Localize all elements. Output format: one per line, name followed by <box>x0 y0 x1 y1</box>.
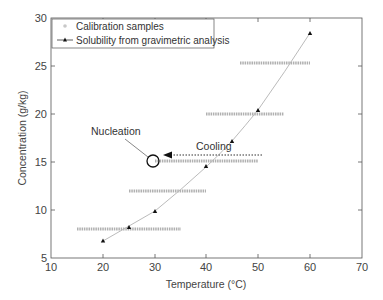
x-axis-label: Temperature (°C) <box>166 278 247 290</box>
y-tick-label: 25 <box>35 60 47 72</box>
y-tick-labels: 5 10 15 20 25 30 <box>35 12 47 264</box>
x-ticks <box>103 18 310 258</box>
nucleation-circle <box>147 155 159 167</box>
arrow-head-icon <box>163 152 172 159</box>
solubility-curve <box>103 33 310 241</box>
legend-label-solubility: Solubility from gravimetric analysis <box>76 35 229 46</box>
x-tick-label: 40 <box>200 261 212 273</box>
x-tick-label: 30 <box>149 261 161 273</box>
y-tick-label: 5 <box>41 252 47 264</box>
y-ticks <box>51 66 362 210</box>
nucleation-label: Nucleation <box>91 125 141 137</box>
y-tick-label: 20 <box>35 108 47 120</box>
x-tick-label: 20 <box>97 261 109 273</box>
calibration-legend-icon <box>63 24 67 28</box>
y-tick-label: 15 <box>35 156 47 168</box>
legend: Calibration samples Solubility from grav… <box>52 19 229 48</box>
y-tick-label: 30 <box>35 12 47 24</box>
x-tick-labels: 10 20 30 40 50 60 70 <box>45 261 368 273</box>
chart: 10 20 30 40 50 60 70 5 10 15 20 25 30 Te… <box>0 0 383 300</box>
nucleation-leader-line <box>125 139 148 157</box>
calibration-samples <box>77 63 310 229</box>
x-tick-label: 50 <box>252 261 264 273</box>
triangle-marker <box>308 31 312 35</box>
plot-frame <box>51 18 362 258</box>
x-tick-label: 70 <box>356 261 368 273</box>
cooling-label: Cooling <box>196 140 232 152</box>
y-axis-label: Concentration (g/kg) <box>16 90 28 185</box>
y-tick-label: 10 <box>35 204 47 216</box>
legend-label-calibration: Calibration samples <box>76 21 164 32</box>
x-tick-label: 60 <box>304 261 316 273</box>
